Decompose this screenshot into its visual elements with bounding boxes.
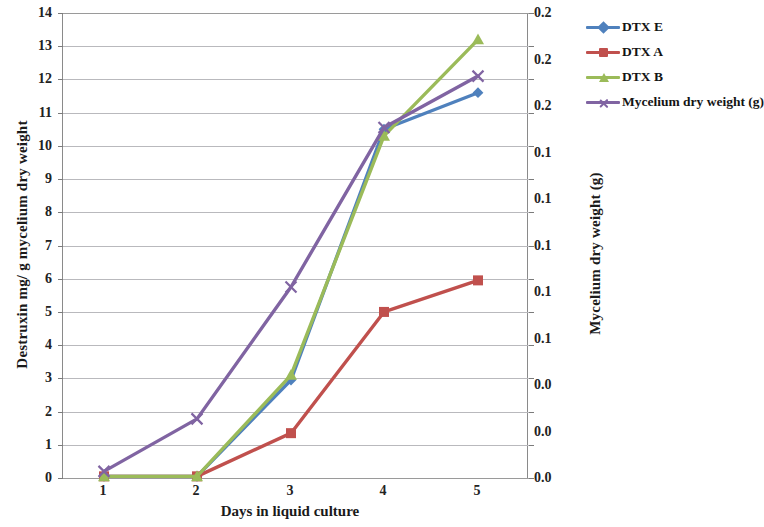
y-axis-right-ticks: 0.20.20.20.10.10.10.10.10.00.00.0 [534, 0, 568, 527]
x-marker-icon [473, 71, 484, 82]
plot-area [62, 13, 528, 478]
y-axis-right-tick-label: 0.1 [534, 239, 568, 253]
x-axis-title: Days in liquid culture [100, 503, 480, 520]
y-axis-right-tick-label: 0.0 [534, 471, 568, 485]
y-axis-left-tick-label: 11 [22, 106, 52, 120]
axis-tick [529, 79, 534, 80]
legend-item-4[interactable]: Mycelium dry weight (g) [586, 89, 754, 114]
x-axis-tick-label: 3 [275, 484, 305, 498]
series-4 [99, 71, 484, 477]
legend-swatch [586, 46, 620, 58]
axis-tick [529, 445, 534, 446]
y-axis-left-tick-label: 9 [22, 172, 52, 186]
y-axis-right-tick-label: 0.2 [534, 6, 568, 20]
y-axis-left-tick-label: 5 [22, 305, 52, 319]
y-axis-left-tick-label: 7 [22, 239, 52, 253]
axis-tick [529, 212, 534, 213]
y-axis-right-tick-label: 0.2 [534, 99, 568, 113]
diamond-marker-icon [473, 87, 484, 98]
axis-tick [529, 312, 534, 313]
axis-tick [529, 146, 534, 147]
y-axis-left-tick-label: 13 [22, 39, 52, 53]
y-axis-left-tick-label: 6 [22, 272, 52, 286]
legend-item-1[interactable]: DTX E [586, 14, 754, 39]
y-axis-right-tick-label: 0.1 [534, 285, 568, 299]
y-axis-left-tick-label: 12 [22, 72, 52, 86]
axis-tick [529, 279, 534, 280]
y-axis-left-tick-label: 8 [22, 205, 52, 219]
x-marker-icon [192, 413, 203, 424]
y-axis-right-tick-label: 0.1 [534, 192, 568, 206]
axis-tick [529, 246, 534, 247]
legend-label: DTX B [622, 69, 663, 85]
square-marker-icon [379, 307, 389, 317]
x-marker-icon [286, 282, 297, 293]
x-axis-tick-label: 1 [88, 484, 118, 498]
axis-tick [529, 412, 534, 413]
y-axis-right-tick-label: 0.1 [534, 332, 568, 346]
y-axis-left-tick-label: 1 [22, 438, 52, 452]
y-axis-left-tick-label: 3 [22, 371, 52, 385]
x-marker-icon [599, 98, 608, 107]
gridline [63, 478, 529, 479]
y-axis-left-tick-label: 0 [22, 471, 52, 485]
series-line [104, 76, 478, 471]
y-axis-left-tick-label: 2 [22, 405, 52, 419]
legend-swatch [586, 71, 620, 83]
legend-label: Mycelium dry weight (g) [622, 94, 764, 110]
axis-tick [529, 46, 534, 47]
axis-tick [529, 13, 534, 14]
square-marker-icon [599, 48, 608, 57]
legend-item-2[interactable]: DTX A [586, 39, 754, 64]
axis-tick [529, 478, 534, 479]
chart-legend: DTX EDTX ADTX BMycelium dry weight (g) [586, 14, 754, 114]
x-axis-tick-label: 2 [181, 484, 211, 498]
y-axis-left-tick-label: 14 [22, 6, 52, 20]
triangle-marker-icon [599, 73, 609, 82]
triangle-marker-icon [472, 34, 484, 45]
diamond-marker-icon [597, 21, 610, 34]
legend-label: DTX E [622, 19, 663, 35]
x-axis-ticks: 12345 [0, 484, 754, 504]
y-axis-left-tick-label: 4 [22, 338, 52, 352]
axis-tick [529, 113, 534, 114]
axis-tick [529, 345, 534, 346]
legend-swatch [586, 96, 620, 108]
axis-tick [529, 179, 534, 180]
legend-swatch [586, 21, 620, 33]
y-axis-right-tick-label: 0.2 [534, 53, 568, 67]
square-marker-icon [286, 428, 296, 438]
square-marker-icon [473, 275, 483, 285]
legend-item-3[interactable]: DTX B [586, 64, 754, 89]
y-axis-title-right: Mycelium dry weight (g) [587, 89, 604, 419]
axis-tick [529, 378, 534, 379]
data-series-layer [63, 13, 529, 478]
legend-label: DTX A [622, 44, 663, 60]
axis-tick [58, 478, 63, 479]
y-axis-right-tick-label: 0.0 [534, 425, 568, 439]
series-3 [98, 34, 484, 482]
y-axis-right-tick-label: 0.0 [534, 378, 568, 392]
y-axis-right-tick-label: 0.1 [534, 146, 568, 160]
x-axis-tick-label: 5 [462, 484, 492, 498]
y-axis-left-tick-label: 10 [22, 139, 52, 153]
y-axis-left-ticks: 01234567891011121314 [22, 0, 52, 527]
x-axis-tick-label: 4 [368, 484, 398, 498]
